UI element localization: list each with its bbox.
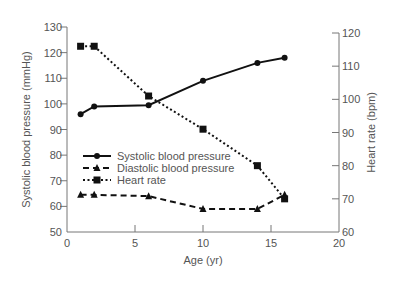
series-line (81, 195, 285, 209)
legend-item: Systolic blood pressure (83, 150, 231, 162)
series-line (81, 58, 285, 114)
axes: 5060708090100110120130607080901001101200… (20, 21, 377, 266)
series-heart-rate (77, 43, 288, 203)
x-tick-label: 15 (265, 237, 277, 249)
circle-marker-icon (78, 111, 84, 117)
square-marker-icon (91, 43, 98, 50)
legend: Systolic blood pressureDiastolic blood p… (83, 150, 234, 186)
series-systolic-blood-pressure (78, 55, 288, 117)
y-tick-label: 100 (44, 98, 62, 110)
legend-label: Diastolic blood pressure (117, 162, 234, 174)
legend-label: Systolic blood pressure (117, 150, 231, 162)
series-diastolic-blood-pressure (77, 191, 288, 212)
series-line (81, 46, 285, 199)
square-marker-icon (145, 93, 152, 100)
circle-marker-icon (254, 60, 260, 66)
y2-tick-label: 120 (342, 27, 360, 39)
y-tick-label: 110 (44, 72, 62, 84)
circle-marker-icon (282, 55, 288, 61)
y-tick-label: 80 (50, 149, 62, 161)
x-tick-label: 10 (197, 237, 209, 249)
y-tick-label: 60 (50, 200, 62, 212)
circle-marker-icon (94, 153, 100, 159)
series-layer (77, 43, 288, 212)
y-tick-label: 90 (50, 124, 62, 136)
y2-axis-label: Heart rate (bpm) (365, 92, 377, 173)
y2-tick-label: 70 (342, 193, 354, 205)
y2-tick-label: 90 (342, 127, 354, 139)
legend-label: Heart rate (117, 174, 166, 186)
chart: 5060708090100110120130607080901001101200… (0, 0, 399, 282)
x-tick-label: 20 (333, 237, 345, 249)
y-tick-label: 50 (50, 226, 62, 238)
x-axis-label: Age (yr) (183, 254, 222, 266)
x-tick-label: 0 (64, 237, 70, 249)
circle-marker-icon (146, 102, 152, 108)
y-tick-label: 130 (44, 21, 62, 33)
y2-tick-label: 110 (342, 60, 360, 72)
square-marker-icon (77, 43, 84, 50)
square-marker-icon (94, 177, 101, 184)
y-tick-label: 70 (50, 175, 62, 187)
y2-tick-label: 80 (342, 160, 354, 172)
x-tick-label: 5 (132, 237, 138, 249)
square-marker-icon (281, 195, 288, 202)
square-marker-icon (254, 162, 261, 169)
y2-tick-label: 100 (342, 93, 360, 105)
circle-marker-icon (200, 78, 206, 84)
circle-marker-icon (91, 103, 97, 109)
y-tick-label: 120 (44, 47, 62, 59)
square-marker-icon (200, 126, 207, 133)
y-axis-label: Systolic blood pressure (mmHg) (20, 51, 32, 208)
legend-item: Diastolic blood pressure (83, 162, 234, 174)
legend-item: Heart rate (83, 174, 166, 186)
